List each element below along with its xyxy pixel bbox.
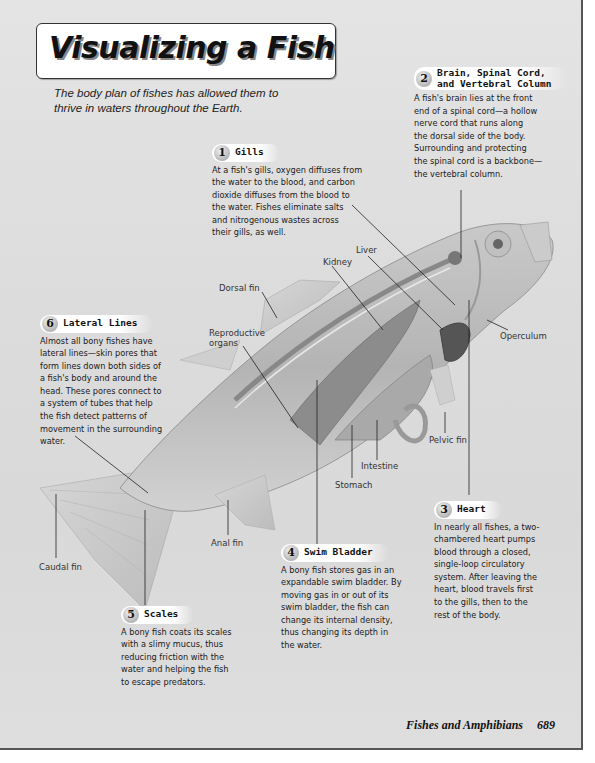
callout-header: 4 Swim Bladder [281,544,389,562]
intro-text: The body plan of fishes has allowed them… [54,86,284,116]
callout-header: 5 Scales [121,606,194,624]
label-intestine: Intestine [361,461,398,471]
callout-title: Swim Bladder [304,547,373,558]
callout-swim-bladder: 4 Swim Bladder A bony fish stores gas in… [281,541,441,652]
page-number: 689 [537,718,555,732]
callout-heart: 3 Heart In nearly all fishes, a two- cha… [434,498,584,621]
number-badge: 4 [283,545,299,561]
label-reproductive-organs: Reproductive organs [209,328,265,348]
callout-body: A bony fish stores gas in an expandable … [281,564,441,652]
label-stomach: Stomach [335,480,372,490]
callout-brain-spinal-cord: 2 Brain, Spinal Cord, and Vertebral Colu… [414,67,579,180]
callout-body: A fish's brain lies at the front end of … [414,92,579,180]
label-pelvic-fin: Pelvic fin [429,435,467,445]
callout-header: 2 Brain, Spinal Cord, and Vertebral Colu… [414,67,567,90]
callout-header: 3 Heart [434,501,502,519]
callout-title: Lateral Lines [63,318,137,329]
number-badge: 1 [214,145,230,161]
callout-scales: 5 Scales A bony fish coats its scales wi… [121,603,281,688]
label-anal-fin: Anal fin [211,538,243,548]
label-dorsal-fin: Dorsal fin [219,283,260,293]
callout-body: In nearly all fishes, a two- chambered h… [434,521,584,622]
callout-title: Brain, Spinal Cord, and Vertebral Column [437,68,551,89]
callout-header: 1 Gills [212,144,280,162]
number-badge: 2 [416,71,432,87]
callout-title: Heart [457,504,486,515]
callout-header: 6 Lateral Lines [40,315,153,333]
label-kidney: Kidney [323,257,352,267]
page-footer: Fishes and Amphibians689 [406,718,555,733]
callout-body: At a fish's gills, oxygen diffuses from … [212,164,412,240]
label-operculum: Operculum [500,331,547,341]
label-caudal-fin: Caudal fin [39,562,82,572]
number-badge: 5 [123,607,139,623]
callout-body: A bony fish coats its scales with a slim… [121,626,281,689]
callout-title: Scales [144,609,178,620]
title-banner: Visualizing a Fish [36,23,336,79]
number-badge: 6 [42,316,58,332]
textbook-page: Visualizing a Fish The body plan of fish… [0,0,583,750]
callout-title: Gills [235,147,264,158]
callout-body: Almost all bony fishes have lateral line… [40,335,220,448]
label-liver: Liver [356,245,377,255]
callout-gills: 1 Gills At a fish's gills, oxygen diffus… [212,141,412,239]
page-title: Visualizing a Fish [49,30,335,65]
chapter-title: Fishes and Amphibians [406,718,523,732]
number-badge: 3 [436,502,452,518]
callout-lateral-lines: 6 Lateral Lines Almost all bony fishes h… [40,312,220,448]
